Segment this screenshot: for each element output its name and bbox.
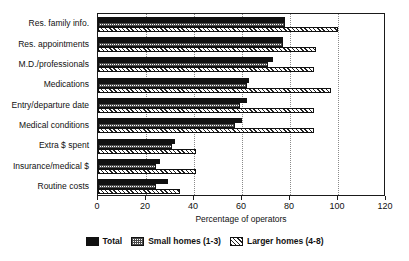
x-tick-mark-60 [241, 196, 242, 200]
x-tick-label-20: 20 [140, 201, 150, 211]
y-axis-label: Medications [44, 79, 89, 89]
x-tick-mark-120 [385, 196, 386, 200]
y-axis-label: M.D./professionals [19, 59, 89, 69]
legend-label: Total [103, 236, 123, 246]
x-axis-ticks: 020406080100120 [97, 196, 385, 214]
bar-group [98, 136, 384, 156]
bar-larger [98, 108, 314, 113]
bar-group [98, 75, 384, 95]
x-tick-label-60: 60 [236, 201, 246, 211]
y-axis-category-labels: Res. family info.Res. appointmentsM.D./p… [0, 13, 93, 196]
legend-item: Small homes (1-3) [131, 236, 221, 246]
y-axis-label: Res. appointments [18, 39, 89, 49]
bar-larger [98, 189, 180, 194]
chart-legend: TotalSmall homes (1-3)Larger homes (4-8) [0, 236, 409, 246]
y-axis-label: Res. family info. [29, 18, 89, 28]
y-axis-label: Entry/departure date [12, 100, 90, 110]
bar-chart-figure: Res. family info.Res. appointmentsM.D./p… [0, 0, 409, 261]
y-axis-label: Medical conditions [19, 120, 89, 130]
x-tick-mark-80 [289, 196, 290, 200]
plot-area [97, 13, 385, 196]
bar-larger [98, 88, 331, 93]
bar-larger [98, 47, 316, 52]
bar-group [98, 116, 384, 136]
x-tick-mark-20 [145, 196, 146, 200]
x-axis-title: Percentage of operators [97, 214, 385, 224]
x-tick-mark-100 [337, 196, 338, 200]
y-axis-label: Routine costs [38, 181, 90, 191]
legend-item: Total [86, 236, 123, 246]
bar-group [98, 55, 384, 75]
bar-group [98, 177, 384, 197]
x-tick-label-40: 40 [188, 201, 198, 211]
bar-group [98, 156, 384, 176]
legend-label: Larger homes (4-8) [247, 236, 324, 246]
bar-larger [98, 27, 338, 32]
bar-group [98, 14, 384, 34]
bar-larger [98, 128, 314, 133]
y-axis-label: Extra $ spent [39, 140, 89, 150]
bar-larger [98, 67, 314, 72]
x-tick-mark-0 [97, 196, 98, 200]
x-tick-label-100: 100 [329, 201, 344, 211]
x-tick-mark-40 [193, 196, 194, 200]
x-tick-label-80: 80 [284, 201, 294, 211]
bar-larger [98, 149, 196, 154]
bars-layer [98, 14, 384, 195]
x-tick-label-0: 0 [94, 201, 99, 211]
legend-swatch-icon [86, 237, 99, 246]
bar-group [98, 34, 384, 54]
x-tick-label-120: 120 [377, 201, 392, 211]
bar-larger [98, 169, 196, 174]
legend-swatch-icon [230, 237, 243, 246]
legend-item: Larger homes (4-8) [230, 236, 324, 246]
bar-group [98, 95, 384, 115]
legend-swatch-icon [131, 237, 144, 246]
legend-label: Small homes (1-3) [148, 236, 221, 246]
y-axis-label: Insurance/medical $ [13, 161, 89, 171]
